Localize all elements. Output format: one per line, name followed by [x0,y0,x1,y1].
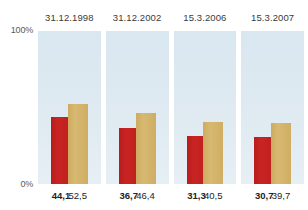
group-value-labels: 31,3 40,5 [174,190,237,206]
chart-groups: 31.12.1998 44,1 52,5 31.12.2002 36,7 46,… [38,0,304,210]
y-axis: 100% 0% [0,0,37,210]
bar-beige-value-label: 46,4 [129,190,163,201]
group-value-labels: 44,1 52,5 [38,190,101,206]
bar-chart: 100% 0% 31.12.1998 44,1 52,5 31.12.2002 [0,0,308,210]
y-axis-tick-100: 100% [11,25,33,35]
bar-beige-value-label: 52,5 [61,190,95,201]
group-value-labels: 30,7 39,7 [241,190,304,206]
bar-beige [136,113,156,184]
bar-beige [271,123,291,184]
y-axis-tick-0: 0% [20,179,33,189]
group-value-labels: 36,7 46,4 [106,190,169,206]
group-bars [174,31,237,184]
chart-group: 15.3.2007 30,7 39,7 [241,0,304,210]
group-bars [38,31,101,184]
group-header-date: 31.12.2002 [106,12,169,23]
group-header-date: 15.3.2007 [241,12,304,23]
group-header-date: 15.3.2006 [174,12,237,23]
group-bars [106,31,169,184]
bar-beige-value-label: 40,5 [196,190,230,201]
chart-group: 31.12.2002 36,7 46,4 [106,0,169,210]
group-bars [241,31,304,184]
bar-beige [68,104,88,184]
bar-beige [203,122,223,184]
chart-group: 31.12.1998 44,1 52,5 [38,0,101,210]
chart-group: 15.3.2006 31,3 40,5 [174,0,237,210]
bar-beige-value-label: 39,7 [264,190,298,201]
group-header-date: 31.12.1998 [38,12,101,23]
